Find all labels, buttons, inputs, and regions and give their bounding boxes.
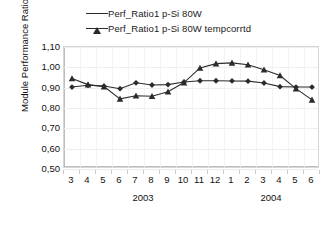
legend-label-series-1: Perf_Ratio1 p-Si 80W (108, 7, 202, 20)
data-point-marker (117, 86, 123, 92)
x-axis-tick-label: 3 (260, 174, 265, 185)
data-point-marker (309, 97, 316, 103)
x-axis-tick-mark (239, 170, 240, 174)
data-point-marker (293, 84, 299, 90)
plot-area (63, 46, 319, 168)
data-point-marker (261, 80, 267, 86)
x-axis-tick-mark (175, 170, 176, 174)
y-axis-tick-label: 0,80 (42, 102, 61, 113)
data-point-marker (245, 78, 251, 84)
x-axis-tick-labels: 3456789101112123456 (63, 170, 319, 184)
x-axis-tick-label: 4 (84, 174, 89, 185)
x-axis-tick-mark (271, 170, 272, 174)
x-axis-tick-label: 6 (308, 174, 313, 185)
x-axis-tick-mark (223, 170, 224, 174)
y-axis-tick-label: 0,50 (42, 163, 61, 174)
x-axis-tick-label: 5 (100, 174, 105, 185)
data-point-marker (197, 78, 203, 84)
y-axis-tick-labels: 1,101,000,900,800,700,600,50 (26, 40, 60, 172)
x-axis-tick-mark (63, 170, 64, 174)
x-axis-tick-label: 2 (244, 174, 249, 185)
x-axis-tick-label: 8 (148, 174, 153, 185)
x-axis-tick-label: 4 (276, 174, 281, 185)
series-layer (64, 47, 320, 169)
data-point-marker (309, 84, 315, 90)
x-axis-group-label: 2004 (260, 192, 281, 203)
legend-marker-diamond-icon (86, 22, 108, 35)
y-axis-tick-label: 0,70 (42, 122, 61, 133)
data-point-marker (69, 75, 76, 81)
x-axis-tick-label: 9 (164, 174, 169, 185)
x-axis-tick-mark (95, 170, 96, 174)
x-axis-tick-label: 5 (292, 174, 297, 185)
x-axis-tick-label: 6 (116, 174, 121, 185)
data-point-marker (229, 78, 235, 84)
x-axis-tick-mark (159, 170, 160, 174)
y-axis-tick-label: 1,10 (42, 41, 61, 52)
x-axis-tick-label: 3 (68, 174, 73, 185)
x-axis-tick-label: 7 (132, 174, 137, 185)
x-axis-tick-mark (287, 170, 288, 174)
x-axis-tick-mark (303, 170, 304, 174)
series-line-2 (72, 81, 312, 89)
x-axis-tick-mark (319, 170, 320, 174)
data-point-marker (133, 80, 139, 86)
data-point-marker (213, 78, 219, 84)
chart-legend: Perf_Ratio1 p-Si 80W Perf_Ratio1 p-Si 80… (86, 7, 251, 35)
x-axis-tick-label: 1 (228, 174, 233, 185)
x-axis-tick-mark (79, 170, 80, 174)
legend-marker-triangle-icon (86, 7, 108, 20)
x-axis-tick-label: 10 (178, 174, 189, 185)
x-axis-tick-mark (255, 170, 256, 174)
x-axis-group-labels: 20032004 (63, 192, 319, 208)
x-axis-tick-mark (207, 170, 208, 174)
x-axis-tick-mark (191, 170, 192, 174)
y-axis-tick-label: 1,00 (42, 61, 61, 72)
x-axis-tick-mark (143, 170, 144, 174)
x-axis-group-label: 2003 (132, 192, 153, 203)
x-axis-tick-label: 11 (194, 174, 204, 185)
data-point-marker (69, 84, 75, 90)
data-point-marker (149, 82, 155, 88)
legend-item-series-2: Perf_Ratio1 p-Si 80W tempcorrtd (86, 22, 251, 35)
chart-container: Perf_Ratio1 p-Si 80W Perf_Ratio1 p-Si 80… (0, 0, 333, 234)
x-axis-tick-mark (111, 170, 112, 174)
legend-item-series-1: Perf_Ratio1 p-Si 80W (86, 7, 251, 20)
x-axis-tick-label: 12 (210, 174, 221, 185)
data-point-marker (165, 88, 172, 94)
y-axis-tick-label: 0,60 (42, 142, 61, 153)
y-axis-tick-label: 0,90 (42, 81, 61, 92)
legend-label-series-2: Perf_Ratio1 p-Si 80W tempcorrtd (108, 22, 251, 35)
data-point-marker (165, 82, 171, 88)
data-point-marker (277, 84, 283, 90)
x-axis-tick-mark (127, 170, 128, 174)
